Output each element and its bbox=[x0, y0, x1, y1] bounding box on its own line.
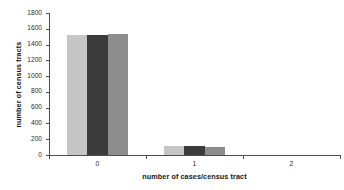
y-axis-title: number of census tracts bbox=[14, 15, 23, 155]
y-tick-label: 200 bbox=[0, 135, 42, 142]
bar bbox=[205, 147, 225, 155]
y-tick-label: 0 bbox=[0, 151, 42, 158]
bar bbox=[164, 146, 184, 155]
bar bbox=[184, 146, 204, 155]
x-tick-label: 0 bbox=[83, 160, 113, 167]
x-axis-title: number of cases/census tract bbox=[49, 172, 340, 181]
x-axis-line bbox=[49, 155, 341, 156]
bar bbox=[87, 35, 107, 155]
y-tick-label: 1600 bbox=[0, 24, 42, 31]
y-tick-label: 400 bbox=[0, 119, 42, 126]
bar-chart-figure: number of census tracts 0200400600800100… bbox=[0, 0, 344, 190]
x-tick-label: 1 bbox=[180, 160, 210, 167]
x-tick-label: 2 bbox=[277, 160, 307, 167]
x-tick-mark bbox=[340, 155, 341, 159]
y-tick-label: 1000 bbox=[0, 72, 42, 79]
bars-layer bbox=[49, 13, 340, 155]
y-tick-label: 800 bbox=[0, 87, 42, 94]
bar bbox=[67, 35, 87, 155]
bar bbox=[108, 34, 128, 155]
y-tick-label: 1800 bbox=[0, 9, 42, 16]
y-tick-label: 600 bbox=[0, 103, 42, 110]
y-tick-label: 1200 bbox=[0, 56, 42, 63]
x-tick-mark bbox=[49, 155, 50, 159]
x-tick-mark bbox=[146, 155, 147, 159]
y-tick-label: 1400 bbox=[0, 40, 42, 47]
x-tick-mark bbox=[243, 155, 244, 159]
